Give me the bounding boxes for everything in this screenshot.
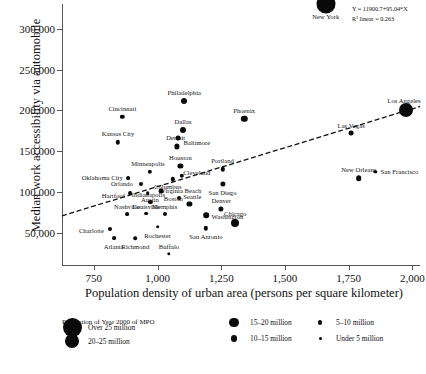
y-tick-label: 250,000 xyxy=(19,64,55,76)
data-point-label: Baltimore xyxy=(184,139,211,146)
data-point-label: Denver xyxy=(211,196,231,203)
data-point-label: New Orleans xyxy=(341,166,376,173)
data-point[interactable] xyxy=(108,227,112,231)
x-tick-label: 1,750 xyxy=(336,272,361,284)
legend-marker xyxy=(231,335,238,342)
y-tick-label: 150,000 xyxy=(19,145,55,157)
legend-item: 15–20 million xyxy=(224,318,292,327)
data-point-label: Cleveland xyxy=(183,168,210,175)
data-point-label: Houston xyxy=(169,154,192,161)
y-tick-label: 50,000 xyxy=(25,227,55,239)
legend-marker xyxy=(229,318,238,327)
data-point-label: San Antonio xyxy=(189,233,222,240)
legend-label: 15–20 million xyxy=(250,318,292,327)
y-tick-label: 200,000 xyxy=(19,104,55,116)
legend-marker-holder xyxy=(310,337,330,340)
x-axis-title: Population density of urban area (person… xyxy=(62,286,426,301)
data-point-label: Memphis xyxy=(152,203,177,210)
legend-marker-holder xyxy=(310,320,330,324)
data-point[interactable] xyxy=(125,213,129,217)
regression-line-path xyxy=(62,106,420,215)
data-point-label: Portland xyxy=(211,157,234,164)
data-point-label: Nashville xyxy=(114,203,140,210)
data-point-label: Detroit xyxy=(166,134,185,141)
x-tick-label: 1,000 xyxy=(145,272,170,284)
data-point-label: San Diego xyxy=(208,189,236,196)
data-point[interactable] xyxy=(144,212,148,216)
data-point[interactable] xyxy=(231,219,239,227)
y-tick-label: 300,000 xyxy=(19,23,55,35)
data-point-label: Buffalo xyxy=(159,242,179,249)
x-tick-label: 1,250 xyxy=(209,272,234,284)
data-point-label: Rochester xyxy=(144,231,171,238)
data-point-label: Atlanta xyxy=(104,243,124,250)
data-point-label: Boston xyxy=(164,195,183,202)
data-point-label: Orlando xyxy=(111,180,133,187)
data-point-label: Kansas City xyxy=(102,130,135,137)
data-point-label: Los Angeles xyxy=(387,96,420,103)
scatter-plot-figure: Median work accessibility via automobile… xyxy=(0,0,426,374)
x-tick-label: 1,500 xyxy=(273,272,298,284)
legend-marker-holder xyxy=(224,318,244,327)
data-point[interactable] xyxy=(156,225,160,229)
legend-label: Under 5 million xyxy=(336,334,383,343)
plot-area: 50,000100,000150,000200,000250,000300,00… xyxy=(62,4,420,266)
data-point[interactable] xyxy=(163,212,167,216)
legend-item: Under 5 million xyxy=(310,334,383,343)
data-point[interactable] xyxy=(181,98,187,104)
data-point-label: Richmond xyxy=(121,243,149,250)
legend-item: 10–15 million xyxy=(224,334,292,343)
data-point-label: Phoenix xyxy=(233,106,255,113)
data-point[interactable] xyxy=(180,127,186,133)
data-point-label: Philadelphia xyxy=(168,89,202,96)
legend-marker xyxy=(65,334,79,348)
data-point-label: Seattle xyxy=(183,192,201,199)
data-point[interactable] xyxy=(356,176,362,182)
data-point[interactable] xyxy=(112,236,116,240)
regression-r2: R² linear = 0.263 xyxy=(352,14,408,24)
y-tick-label: 100,000 xyxy=(19,186,55,198)
data-point-label: Charlotte xyxy=(79,227,104,234)
data-point-label: San Francisco xyxy=(380,167,418,174)
data-point[interactable] xyxy=(399,103,413,117)
data-point[interactable] xyxy=(134,236,138,240)
data-point-label: Hartford xyxy=(102,192,125,199)
data-point-label: Indianapolis xyxy=(132,191,165,198)
legend-marker xyxy=(319,337,322,340)
data-point[interactable] xyxy=(349,131,354,136)
data-point-label: Chicago xyxy=(224,210,246,217)
legend-item: 20–25 million xyxy=(62,334,130,348)
legend: Population of Year 2000 of MPO Over 25 m… xyxy=(62,318,426,330)
data-point-label: Dallas xyxy=(174,118,191,125)
data-point-label: Cincinnati xyxy=(108,104,136,111)
legend-marker-holder xyxy=(224,335,244,342)
regression-annotation: Y = 11900.7+95.04*X R² linear = 0.263 xyxy=(352,4,408,23)
legend-item: 5–10 million xyxy=(310,318,374,327)
data-point-label: Las Vegas xyxy=(338,122,365,129)
legend-marker-holder xyxy=(62,334,82,348)
x-tick-label: 2,000 xyxy=(400,272,425,284)
data-point-label: Minneapolis xyxy=(131,159,165,166)
data-point[interactable] xyxy=(139,182,143,186)
legend-label: 10–15 million xyxy=(250,334,292,343)
legend-marker xyxy=(318,320,322,324)
data-point[interactable] xyxy=(204,212,210,218)
legend-label: 20–25 million xyxy=(88,337,130,346)
legend-label: 5–10 million xyxy=(336,318,374,327)
regression-equation: Y = 11900.7+95.04*X xyxy=(352,4,408,14)
legend-sample-marker xyxy=(322,13,341,32)
y-axis-title: Median work accessibility via automobile xyxy=(29,6,44,246)
legend-label: Over 25 million xyxy=(88,323,135,332)
x-tick-label: 750 xyxy=(86,272,103,284)
